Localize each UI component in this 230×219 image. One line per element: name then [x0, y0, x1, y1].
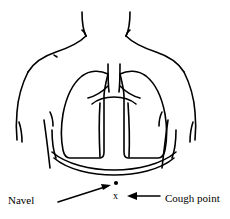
- neck-right-tendon: [126, 30, 130, 36]
- navel-dot-marker: [114, 181, 118, 185]
- torso-illustration: [0, 0, 230, 219]
- left-arm-inner-line: [19, 122, 22, 142]
- diaphragm-lower-line: [54, 158, 174, 175]
- right-costal-margin: [172, 130, 176, 158]
- right-lung-outline: [62, 71, 109, 158]
- right-arm-inner-line: [190, 122, 193, 142]
- right-shoulder-line: [126, 36, 184, 72]
- left-shoulder-crease: [54, 55, 57, 57]
- torso-left-flank: [44, 120, 50, 168]
- cough-point-label: Cough point: [165, 193, 220, 204]
- navel-arrow-shaft: [58, 186, 108, 202]
- mediastinum-right-edge: [128, 103, 129, 157]
- navel-label: Navel: [8, 195, 34, 206]
- anatomy-figure: x Navel Cough point: [0, 0, 230, 219]
- neck-left-tendon: [82, 30, 86, 36]
- right-arm-outer-line: [184, 72, 196, 140]
- left-costal-margin: [52, 130, 56, 158]
- trachea-right-wall: [119, 64, 120, 92]
- cough-point-x-marker: x: [113, 191, 118, 201]
- navel-arrow-head: [101, 184, 111, 190]
- mediastinum-top-arc: [92, 97, 136, 104]
- right-armpit-line: [159, 112, 162, 126]
- mediastinum-left-edge: [99, 103, 100, 157]
- trachea-left-wall: [108, 64, 109, 92]
- left-shoulder-line: [28, 36, 86, 72]
- left-armpit-line: [50, 112, 53, 126]
- cough-arrow-head: [127, 192, 137, 200]
- left-arm-outer-line: [16, 72, 28, 140]
- left-lung-outline: [120, 71, 167, 158]
